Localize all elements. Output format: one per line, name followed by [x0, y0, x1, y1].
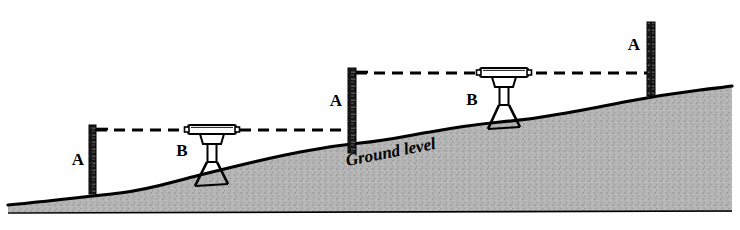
levelling-diagram: A B A — [0, 0, 740, 230]
instrument-left-label: B — [176, 141, 187, 160]
diagram-canvas: A B A — [0, 0, 740, 230]
staff-middle-label: A — [330, 91, 343, 110]
staff-right: A — [628, 22, 655, 96]
instrument-right-label: B — [466, 90, 477, 109]
staff-left: A — [72, 125, 108, 194]
staff-middle: A — [330, 68, 368, 153]
staff-right-label: A — [628, 35, 641, 54]
staff-left-label: A — [72, 150, 85, 169]
